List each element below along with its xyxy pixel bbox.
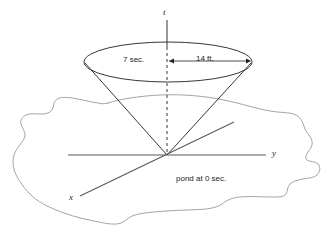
pond-outline xyxy=(13,95,320,224)
axis-label-x: x xyxy=(69,193,73,202)
cone-right-slant xyxy=(167,63,251,155)
diagram-canvas xyxy=(0,0,334,244)
x-axis-line xyxy=(80,122,234,196)
figure-root: t y x 7 sec. 14 ft. pond at 0 sec. xyxy=(0,0,334,244)
axis-label-y: y xyxy=(272,149,276,158)
axis-label-t: t xyxy=(163,8,166,17)
radius-annotation-label: 14 ft. xyxy=(196,55,214,63)
cone-top-ellipse xyxy=(84,42,252,82)
cone-left-slant xyxy=(85,63,167,155)
time-annotation-label: 7 sec. xyxy=(123,56,144,64)
pond-annotation-label: pond at 0 sec. xyxy=(176,175,226,183)
